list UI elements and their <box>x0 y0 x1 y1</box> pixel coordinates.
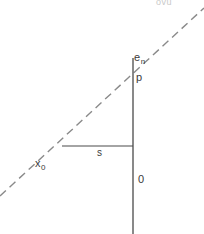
label-x-base: x <box>35 157 41 169</box>
label-p: p <box>136 72 142 83</box>
label-x-0: x0 <box>35 158 45 172</box>
figure-canvas: ovu en p s x0 0 <box>0 0 204 234</box>
label-s: s <box>97 148 102 158</box>
label-zero: 0 <box>138 174 144 185</box>
label-e-subscript: n <box>140 57 145 66</box>
top-edge-text-fragment: ovu <box>156 0 172 7</box>
label-e-n: en <box>134 52 145 66</box>
label-x-subscript: 0 <box>41 163 46 172</box>
figure-drawing <box>0 0 204 234</box>
dashed-diagonal-line <box>0 8 204 196</box>
